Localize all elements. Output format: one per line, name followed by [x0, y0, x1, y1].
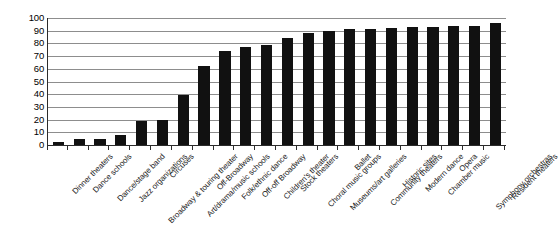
x-label-slot: Resident theaters	[484, 151, 505, 251]
bar[interactable]	[282, 38, 293, 145]
bar[interactable]	[115, 135, 126, 145]
bar-slot	[402, 18, 423, 145]
bar-slot	[256, 18, 277, 145]
x-label-slot: Broadway & touring theater	[130, 151, 151, 251]
x-label-slot: Opera	[442, 151, 463, 251]
y-tick-label: 20	[10, 115, 44, 125]
bar-slot	[194, 18, 215, 145]
x-label-slot: Dinner theaters	[47, 151, 68, 251]
bar-slot	[381, 18, 402, 145]
bar-slot	[131, 18, 152, 145]
bar[interactable]	[178, 95, 189, 145]
x-label-slot: Dance/stage band	[89, 151, 110, 251]
bar[interactable]	[469, 26, 480, 145]
bar[interactable]	[240, 47, 251, 145]
bar-slot	[423, 18, 444, 145]
x-label-slot: Stock theaters	[276, 151, 297, 251]
x-label-slot: Historic sites	[380, 151, 401, 251]
bar-slot	[298, 18, 319, 145]
bar[interactable]	[448, 26, 459, 145]
bars-layer	[48, 18, 506, 145]
bar-slot	[464, 18, 485, 145]
bar[interactable]	[427, 27, 438, 145]
y-tick-label: 0	[10, 140, 44, 150]
y-tick-label: 30	[10, 102, 44, 112]
bar[interactable]	[198, 66, 209, 145]
x-label-slot: Off-off Broadway	[234, 151, 255, 251]
bar-slot	[173, 18, 194, 145]
bar-slot	[69, 18, 90, 145]
y-tick-label: 50	[10, 77, 44, 87]
x-axis-labels: Dinner theatersDance schoolsDance/stage …	[47, 151, 505, 251]
bar-slot	[235, 18, 256, 145]
bar[interactable]	[261, 45, 272, 145]
bar[interactable]	[219, 51, 230, 145]
y-tick-label: 80	[10, 38, 44, 48]
bar-slot	[215, 18, 236, 145]
bar[interactable]	[136, 121, 147, 145]
bar[interactable]	[344, 29, 355, 145]
bar[interactable]	[386, 28, 397, 145]
x-label-slot: Choral music groups	[297, 151, 318, 251]
x-label-slot: Off-Broadway	[193, 151, 214, 251]
bar[interactable]	[365, 29, 376, 145]
y-axis: 1009080706050403020100	[10, 12, 44, 148]
bar-slot	[110, 18, 131, 145]
x-label-slot: Dance schools	[68, 151, 89, 251]
y-tick-label: 70	[10, 51, 44, 61]
x-label-slot: Chamber music	[422, 151, 443, 251]
bar[interactable]	[303, 33, 314, 145]
x-label-slot: Jazz organizations	[109, 151, 130, 251]
y-tick-label: 40	[10, 89, 44, 99]
bar[interactable]	[94, 139, 105, 145]
bar-slot	[152, 18, 173, 145]
x-label-slot: Community theaters	[359, 151, 380, 251]
x-label-slot: Museums/art galleries	[318, 151, 339, 251]
bar-slot	[90, 18, 111, 145]
bar-slot	[485, 18, 506, 145]
bar[interactable]	[157, 120, 168, 145]
bar-slot	[360, 18, 381, 145]
x-label-slot: Ballet	[338, 151, 359, 251]
bar-slot	[339, 18, 360, 145]
x-label-slot: Art/drama/music schools	[172, 151, 193, 251]
x-label-slot: Symphony orchestras	[463, 151, 484, 251]
bar-slot	[443, 18, 464, 145]
bar[interactable]	[407, 27, 418, 145]
x-label-slot: Circuses	[151, 151, 172, 251]
y-tick-label: 90	[10, 26, 44, 36]
bar[interactable]	[74, 139, 85, 145]
bar-slot	[48, 18, 69, 145]
plot-area	[47, 18, 506, 146]
bar[interactable]	[490, 23, 501, 145]
x-label-slot: Folk/ethnic dance	[214, 151, 235, 251]
x-label-slot: Modern dance	[401, 151, 422, 251]
bar[interactable]	[323, 31, 334, 145]
x-label-slot: Children's theater	[255, 151, 276, 251]
y-tick-label: 100	[10, 13, 44, 23]
bar[interactable]	[53, 142, 64, 145]
bar-slot	[277, 18, 298, 145]
x-axis-label: Resident theaters	[510, 152, 560, 202]
y-tick-label: 10	[10, 127, 44, 137]
bar-slot	[319, 18, 340, 145]
y-tick-label: 60	[10, 64, 44, 74]
